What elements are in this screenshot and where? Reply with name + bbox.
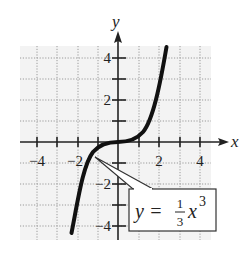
x-axis-label: x [230, 132, 239, 151]
cubic-function-graph: −4 −2 2 4 4 2 −2 −4 x y y = 1 3 x 3 [0, 0, 240, 258]
x-tick-label-neg2: −2 [67, 153, 83, 169]
x-tick-label-neg4: −4 [29, 153, 45, 169]
x-tick-label-4: 4 [196, 153, 204, 169]
equation-exponent: 3 [199, 194, 206, 209]
equation-lhs: y = [133, 200, 162, 223]
x-tick-label-2: 2 [155, 153, 163, 169]
y-tick-label-4: 4 [104, 50, 112, 66]
y-tick-label-2: 2 [104, 92, 112, 108]
equation-fraction-numerator: 1 [177, 196, 184, 211]
y-axis-label: y [110, 12, 120, 31]
y-tick-label-neg4: −4 [95, 218, 111, 234]
y-tick-label-neg2: −2 [95, 176, 111, 192]
equation-variable: x [187, 200, 197, 222]
equation-fraction-denominator: 3 [177, 214, 184, 229]
